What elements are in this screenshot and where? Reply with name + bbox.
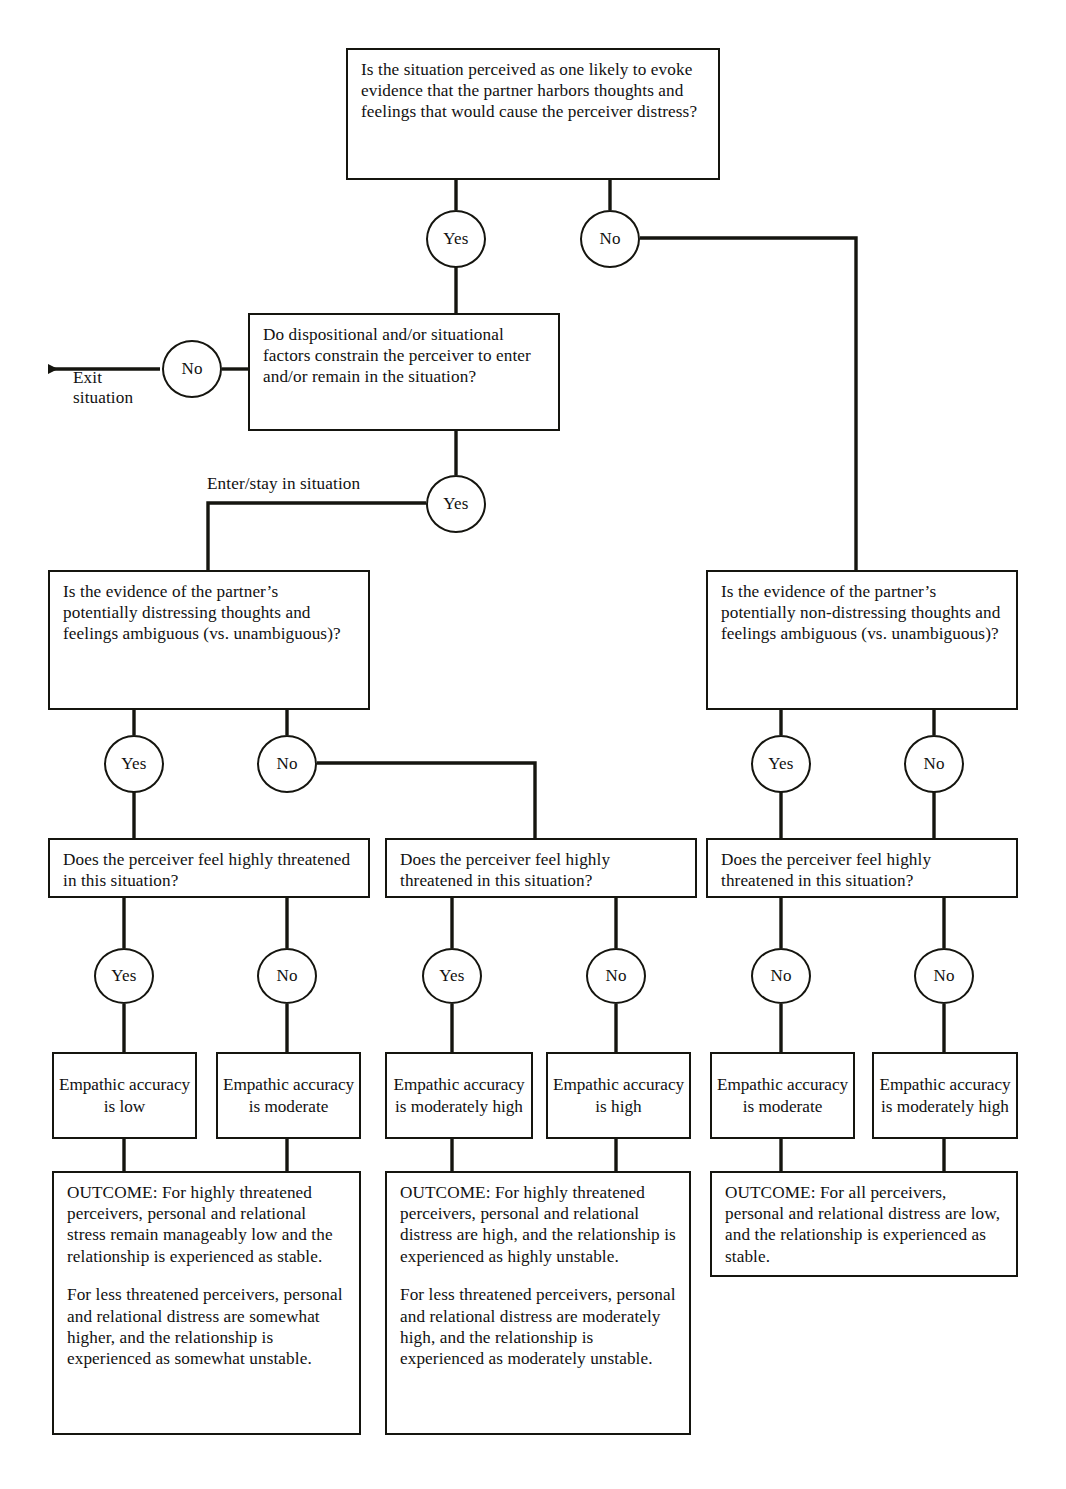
decision-text: Does the perceiver feel highly threatene…: [721, 849, 1005, 891]
decision-box-threat-middle: Does the perceiver feel highly threatene…: [385, 838, 697, 898]
outcome-paragraph-1: OUTCOME: For all perceivers, personal an…: [725, 1182, 1005, 1267]
branch-label: No: [276, 754, 297, 774]
accuracy-text: Empathic accuracy is moderate: [221, 1074, 356, 1116]
flowchart-canvas: Is the situation perceived as one likely…: [0, 0, 1066, 1489]
branch-node-q3-right-no: No: [904, 735, 964, 793]
outcome-box-middle: OUTCOME: For highly threatened perceiver…: [385, 1171, 691, 1435]
branch-label: No: [599, 229, 620, 249]
branch-node-threat-e-no: No: [751, 948, 811, 1004]
accuracy-text: Empathic accuracy is moderately high: [390, 1074, 528, 1116]
branch-label: Yes: [121, 754, 146, 774]
decision-box-constraints: Do dispositional and/or situational fact…: [248, 313, 560, 431]
outcome-accuracy-6: Empathic accuracy is moderately high: [872, 1052, 1018, 1139]
branch-label: Yes: [443, 229, 468, 249]
decision-text: Is the evidence of the partner’s potenti…: [63, 581, 357, 645]
accuracy-text: Empathic accuracy is moderate: [715, 1074, 850, 1116]
branch-node-q3-right-yes: Yes: [751, 735, 811, 793]
decision-text: Does the perceiver feel highly threatene…: [63, 849, 357, 891]
decision-box-situation-perceived: Is the situation perceived as one likely…: [346, 48, 720, 180]
branch-label: No: [605, 966, 626, 986]
branch-label: No: [181, 359, 202, 379]
decision-text: Do dispositional and/or situational fact…: [263, 324, 547, 388]
branch-label: Yes: [111, 966, 136, 986]
outcome-accuracy-1: Empathic accuracy is low: [52, 1052, 197, 1139]
branch-node-threat-a-yes: Yes: [94, 948, 154, 1004]
decision-text: Is the situation perceived as one likely…: [361, 59, 707, 123]
accuracy-text: Empathic accuracy is high: [551, 1074, 686, 1116]
branch-node-threat-b-no: No: [257, 948, 317, 1004]
branch-node-q3-left-yes: Yes: [104, 735, 164, 793]
branch-node-threat-c-yes: Yes: [422, 948, 482, 1004]
branch-node-q2-yes: Yes: [426, 475, 486, 533]
branch-label: No: [276, 966, 297, 986]
exit-line-2: situation: [73, 388, 173, 408]
edge-label-enter-stay: Enter/stay in situation: [207, 474, 360, 494]
outcome-accuracy-4: Empathic accuracy is high: [546, 1052, 691, 1139]
branch-node-q3-left-no: No: [257, 735, 317, 793]
decision-text: Does the perceiver feel highly threatene…: [400, 849, 684, 891]
outcome-paragraph-2: For less threatened perceivers, personal…: [400, 1284, 678, 1369]
decision-box-threat-left: Does the perceiver feel highly threatene…: [48, 838, 370, 898]
branch-node-threat-f-no: No: [914, 948, 974, 1004]
decision-box-threat-right: Does the perceiver feel highly threatene…: [706, 838, 1018, 898]
outcome-box-left: OUTCOME: For highly threatened perceiver…: [52, 1171, 361, 1435]
enter-stay-text: Enter/stay in situation: [207, 474, 360, 493]
branch-label: No: [770, 966, 791, 986]
accuracy-text: Empathic accuracy is moderately high: [877, 1074, 1013, 1116]
branch-node-q1-yes: Yes: [426, 210, 486, 268]
outcome-paragraph-1: OUTCOME: For highly threatened perceiver…: [67, 1182, 348, 1267]
branch-node-q1-no: No: [580, 210, 640, 268]
outcome-paragraph-2: For less threatened perceivers, personal…: [67, 1284, 348, 1369]
decision-box-ambiguous-non-distressing: Is the evidence of the partner’s potenti…: [706, 570, 1018, 710]
branch-label: No: [933, 966, 954, 986]
branch-label: No: [923, 754, 944, 774]
branch-node-threat-d-no: No: [586, 948, 646, 1004]
outcome-accuracy-2: Empathic accuracy is moderate: [216, 1052, 361, 1139]
outcome-paragraph-1: OUTCOME: For highly threatened perceiver…: [400, 1182, 678, 1267]
outcome-accuracy-5: Empathic accuracy is moderate: [710, 1052, 855, 1139]
branch-label: Yes: [443, 494, 468, 514]
accuracy-text: Empathic accuracy is low: [57, 1074, 192, 1116]
outcome-accuracy-3: Empathic accuracy is moderately high: [385, 1052, 533, 1139]
branch-label: Yes: [439, 966, 464, 986]
decision-box-ambiguous-distressing: Is the evidence of the partner’s potenti…: [48, 570, 370, 710]
branch-label: Yes: [768, 754, 793, 774]
outcome-box-right: OUTCOME: For all perceivers, personal an…: [710, 1171, 1018, 1277]
decision-text: Is the evidence of the partner’s potenti…: [721, 581, 1005, 645]
exit-line-1: Exit: [73, 368, 173, 388]
edge-label-exit-situation: Exit situation: [73, 368, 173, 409]
